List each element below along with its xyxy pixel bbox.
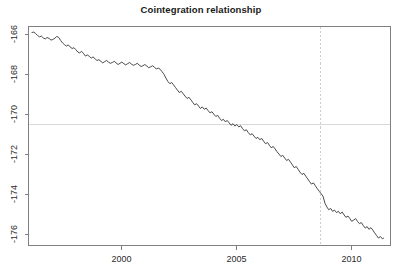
y-tick-label: -176 [9,219,19,249]
y-tick-label: -166 [9,19,19,49]
x-tick-label: 2000 [102,254,142,264]
data-series-group [32,32,384,239]
chart-container: Cointegration relationship -166-168-170-… [0,0,402,280]
y-tick-label: -168 [9,59,19,89]
series-line [32,32,384,239]
axes-group [25,27,391,250]
plot-area-svg [0,0,402,280]
y-tick-label: -170 [9,99,19,129]
x-tick-label: 2005 [217,254,257,264]
y-tick-label: -172 [9,139,19,169]
y-tick-label: -174 [9,179,19,209]
x-tick-label: 2010 [331,254,371,264]
